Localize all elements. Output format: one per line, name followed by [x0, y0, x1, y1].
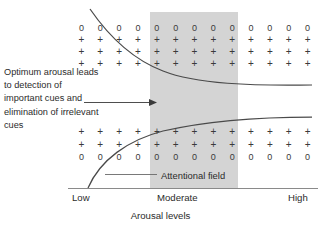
x-axis-title: Arousal levels — [0, 210, 321, 221]
moderate-arousal-band — [150, 12, 238, 188]
attentional-field-label: Attentional field — [161, 170, 225, 181]
annotation-text: Optimum arousal leads to detection of im… — [4, 66, 100, 132]
attention-arousal-figure: 0000000000000+++++++++++++++++++++++++++… — [0, 0, 321, 231]
axis-tick-high: High — [288, 192, 308, 203]
axis-tick-moderate: Moderate — [157, 192, 198, 203]
axis-tick-low: Low — [72, 192, 90, 203]
